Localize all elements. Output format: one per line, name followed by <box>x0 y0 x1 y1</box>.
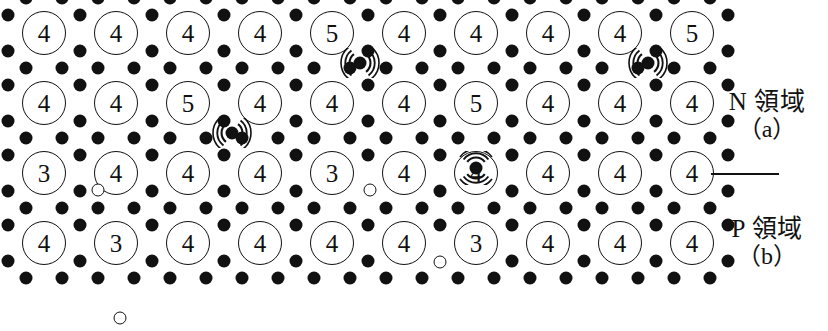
atom-4: 4 <box>166 11 210 55</box>
lattice-dot <box>596 132 609 145</box>
lattice-dot <box>218 255 231 268</box>
lattice-dot <box>344 132 357 145</box>
lattice-dot <box>128 132 141 145</box>
hole-icon <box>114 312 127 325</box>
atom-4: 4 <box>22 81 66 125</box>
lattice-dot <box>290 79 303 92</box>
lattice-dot <box>74 79 87 92</box>
lattice-dot <box>290 115 303 128</box>
lattice-dot <box>578 255 591 268</box>
lattice-dot <box>200 62 213 75</box>
lattice-dot <box>632 132 645 145</box>
lattice-dot <box>362 219 375 232</box>
atom-4: 4 <box>526 151 570 195</box>
lattice-dot <box>362 45 375 58</box>
lattice-dot <box>506 45 519 58</box>
lattice-dot <box>290 9 303 22</box>
lattice-dot <box>56 272 69 285</box>
lattice-dot <box>704 202 717 215</box>
lattice-dot <box>164 0 177 5</box>
lattice-dot <box>236 202 249 215</box>
lattice-dot <box>164 132 177 145</box>
atom-4: 4 <box>238 221 282 265</box>
atom-4: 4 <box>238 81 282 125</box>
lattice-dot <box>380 272 393 285</box>
atom-4: 4 <box>238 151 282 195</box>
lattice-dot <box>20 132 33 145</box>
lattice-dot <box>236 132 249 145</box>
lattice-dot <box>578 185 591 198</box>
lattice-dot <box>2 115 15 128</box>
atom-4: 4 <box>526 81 570 125</box>
lattice-dot <box>722 45 735 58</box>
lattice-dot <box>488 132 501 145</box>
atom-4: 4 <box>22 221 66 265</box>
lattice-dot <box>146 219 159 232</box>
lattice-dot <box>20 0 33 5</box>
lattice-dot <box>200 202 213 215</box>
lattice-dot <box>128 62 141 75</box>
lattice-dot <box>272 272 285 285</box>
lattice-dot <box>578 45 591 58</box>
lattice-dot <box>560 0 573 5</box>
lattice-dot <box>632 272 645 285</box>
lattice-dot <box>200 0 213 5</box>
lattice-dot <box>56 132 69 145</box>
lattice-dot <box>560 202 573 215</box>
lattice-dot <box>20 272 33 285</box>
lattice-dot <box>146 9 159 22</box>
lattice-dot <box>704 0 717 5</box>
lattice-dot <box>146 185 159 198</box>
atom-4: 4 <box>670 81 714 125</box>
lattice-dot <box>308 62 321 75</box>
p-region-title: P 領域 <box>712 215 822 243</box>
lattice-dot <box>434 9 447 22</box>
lattice-dot <box>2 219 15 232</box>
lattice-dot <box>668 272 681 285</box>
lattice-dot <box>146 45 159 58</box>
lattice-dot <box>722 185 735 198</box>
lattice-dot <box>650 255 663 268</box>
lattice-dot <box>146 149 159 162</box>
lattice-dot <box>632 62 645 75</box>
atom-4: 4 <box>238 11 282 55</box>
lattice-dot <box>506 115 519 128</box>
lattice-dot <box>74 115 87 128</box>
lattice-dot <box>362 255 375 268</box>
lattice-dot <box>506 185 519 198</box>
lattice-dot <box>578 79 591 92</box>
lattice-dot <box>524 202 537 215</box>
lattice-dot <box>344 0 357 5</box>
lattice-dot <box>596 202 609 215</box>
lattice-dot <box>308 272 321 285</box>
lattice-dot <box>506 255 519 268</box>
lattice-dot <box>218 185 231 198</box>
lattice-dot <box>164 272 177 285</box>
atom-4: 4 <box>310 221 354 265</box>
lattice-dot <box>416 62 429 75</box>
lattice-dot <box>380 132 393 145</box>
lattice-dot <box>434 115 447 128</box>
n-region-title: N 領域 <box>712 88 822 116</box>
lattice-dot <box>344 272 357 285</box>
lattice-dot <box>650 79 663 92</box>
lattice-dot <box>506 9 519 22</box>
lattice-dot <box>272 0 285 5</box>
lattice-dot <box>218 219 231 232</box>
lattice-dot <box>290 255 303 268</box>
lattice-dot <box>524 62 537 75</box>
lattice-dot <box>650 185 663 198</box>
lattice-dot <box>344 62 357 75</box>
lattice-dot <box>92 62 105 75</box>
lattice-dot <box>452 132 465 145</box>
lattice-dot <box>650 219 663 232</box>
lattice-dot <box>488 272 501 285</box>
lattice-dot <box>596 272 609 285</box>
lattice-dot <box>20 62 33 75</box>
lattice-dot <box>434 185 447 198</box>
lattice-dot <box>704 272 717 285</box>
lattice-dot <box>128 272 141 285</box>
atom-4: 4 <box>526 11 570 55</box>
lattice-dot <box>560 62 573 75</box>
lattice-dot <box>578 219 591 232</box>
